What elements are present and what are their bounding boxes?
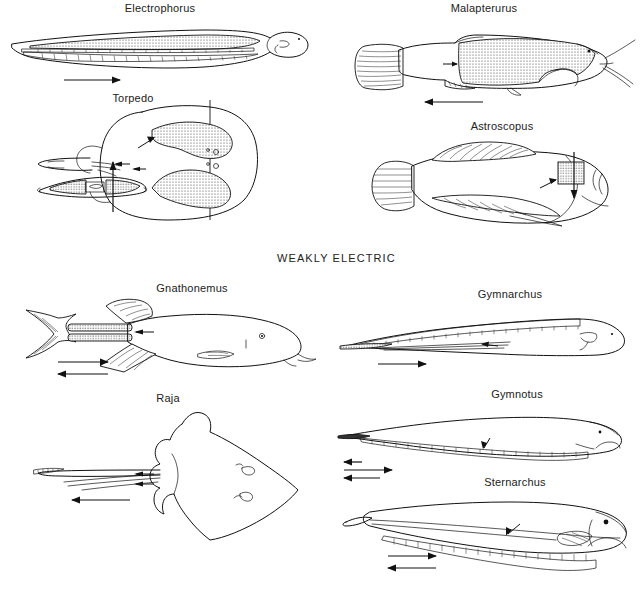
torpedo-drawing	[34, 100, 324, 225]
gnathonemus-drawing	[22, 296, 322, 384]
current-arrow-right	[64, 77, 121, 84]
current-arrow-left	[71, 497, 130, 504]
raja-drawing	[30, 408, 320, 543]
panel-gymnotus	[338, 400, 634, 482]
panel-label-gymnotus: Gymnotus	[462, 388, 572, 400]
panel-sternarchus	[340, 490, 636, 586]
electric-fish-figure: Electrophorus	[0, 0, 643, 590]
section-header-weakly-electric: WEAKLY ELECTRIC	[277, 252, 396, 264]
sternarchus-drawing	[340, 490, 636, 586]
dorsal-markings	[234, 464, 255, 501]
organ-pointer-arrow	[540, 178, 557, 188]
panel-electrophorus	[8, 18, 318, 98]
electrophorus-drawing	[8, 18, 318, 98]
organ-pointer-arrow	[506, 524, 520, 536]
current-arrow-right-long	[344, 467, 393, 474]
current-arrow-left-short	[343, 459, 362, 466]
panel-label-electrophorus: Electrophorus	[100, 2, 220, 14]
current-arrow-left	[424, 99, 483, 106]
panel-gymnarchus	[340, 302, 635, 382]
organ-pointer-arrow	[134, 329, 154, 334]
current-arrow-left	[57, 371, 108, 378]
astroscopus-drawing	[370, 136, 640, 228]
malapterurus-drawing	[355, 18, 640, 108]
panel-astroscopus	[370, 136, 640, 228]
panel-label-sternarchus: Sternarchus	[455, 476, 575, 488]
gymnotus-drawing	[338, 400, 634, 482]
current-arrow-left	[387, 565, 436, 572]
panel-label-raja: Raja	[128, 392, 208, 404]
panel-malapterurus	[355, 18, 640, 108]
panel-label-gymnarchus: Gymnarchus	[455, 288, 565, 300]
gymnarchus-drawing	[340, 302, 635, 382]
panel-label-malapterurus: Malapterurus	[424, 2, 544, 14]
organ-pointer-arrow	[481, 438, 490, 449]
organ-pointer-arrow	[443, 61, 458, 66]
current-arrow-right	[378, 361, 427, 368]
panel-label-astroscopus: Astroscopus	[442, 120, 562, 132]
panel-label-gnathonemus: Gnathonemus	[132, 282, 252, 294]
organ-pointer-arrow	[138, 137, 155, 149]
panel-torpedo	[34, 100, 324, 225]
current-arrow-left-medium	[343, 475, 380, 482]
torpedo-transverse-section	[37, 177, 147, 197]
current-arrow-right	[388, 553, 437, 560]
current-arrow-right	[58, 359, 109, 366]
panel-gnathonemus	[22, 296, 322, 384]
panel-raja	[30, 408, 320, 543]
